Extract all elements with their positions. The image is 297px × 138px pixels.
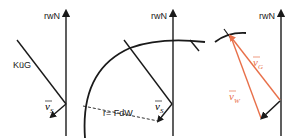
ship-velocity-arrow xyxy=(263,101,280,117)
north-axis-label: rwN xyxy=(44,11,60,21)
course-line-label: KüG xyxy=(13,60,31,70)
panel-1: rwN KüG vS xyxy=(13,11,66,136)
north-axis-label: rwN xyxy=(151,11,167,21)
panel-3: rwN vG vW xyxy=(190,11,281,136)
north-axis-label: rwN xyxy=(259,11,275,21)
ship-velocity-arrow xyxy=(52,104,66,116)
ground-velocity-vector xyxy=(231,37,280,100)
water-velocity-vector xyxy=(231,37,261,118)
radius-label: r= FdW xyxy=(103,108,133,118)
ground-velocity-label: vG xyxy=(253,56,263,71)
turning-circle-arc xyxy=(85,40,205,138)
navigation-diagram: rwN KüG vS rwN r= FdW vS rwN vG vW xyxy=(0,0,297,138)
ship-velocity-label: vS xyxy=(45,100,54,115)
panel-2: rwN r= FdW vS xyxy=(83,11,205,138)
ship-velocity-label: vS xyxy=(155,100,164,115)
course-line xyxy=(124,40,172,104)
course-line xyxy=(17,40,66,104)
water-velocity-label: vW xyxy=(229,90,241,105)
